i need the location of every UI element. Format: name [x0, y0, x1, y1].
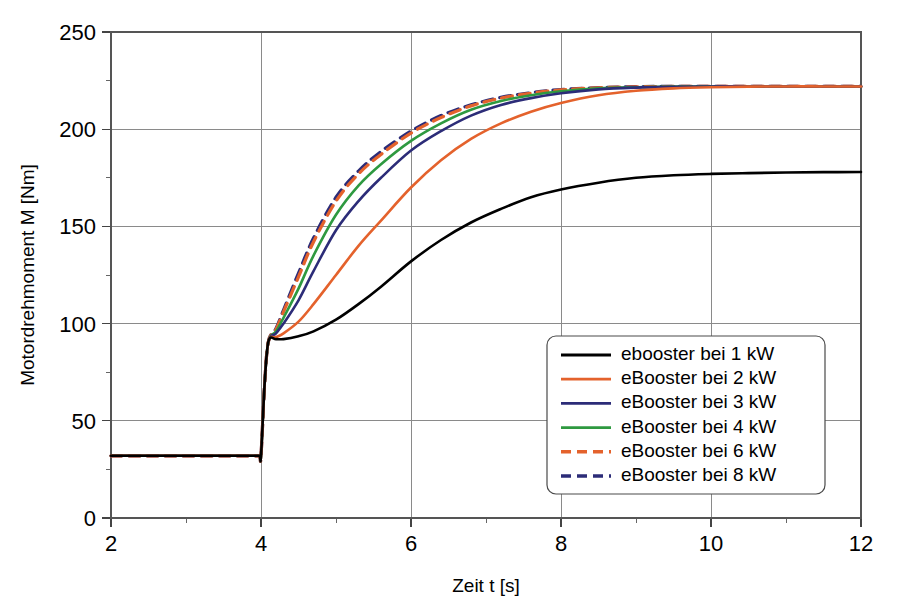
- legend-item-label: eBooster bei 8 kW: [621, 464, 776, 485]
- y-tick-label: 250: [59, 20, 96, 45]
- x-tick-label: 2: [105, 531, 117, 556]
- chart-container: 24681012 050100150200250 Zeit t [s] Moto…: [0, 0, 899, 604]
- y-axis-title: Motordrehmoment M [Nm]: [17, 164, 38, 386]
- y-tick-label: 150: [59, 214, 96, 239]
- legend-item-label: ebooster bei 1 kW: [621, 343, 774, 364]
- x-tick-label: 8: [555, 531, 567, 556]
- x-axis-title: Zeit t [s]: [452, 575, 520, 596]
- x-tick-label: 10: [699, 531, 723, 556]
- x-tick-label: 12: [849, 531, 873, 556]
- y-tick-label: 100: [59, 312, 96, 337]
- y-tick-label: 200: [59, 117, 96, 142]
- chart-background: [0, 0, 899, 604]
- legend-item-label: eBooster bei 4 kW: [621, 416, 776, 437]
- y-tick-label: 50: [72, 409, 96, 434]
- chart-legend: ebooster bei 1 kWeBooster bei 2 kWeBoost…: [547, 336, 825, 494]
- legend-item-label: eBooster bei 6 kW: [621, 440, 776, 461]
- legend-item-label: eBooster bei 2 kW: [621, 367, 776, 388]
- x-tick-label: 6: [405, 531, 417, 556]
- line-chart: 24681012 050100150200250 Zeit t [s] Moto…: [0, 0, 899, 604]
- x-tick-label: 4: [255, 531, 267, 556]
- legend-item-label: eBooster bei 3 kW: [621, 391, 776, 412]
- y-tick-label: 0: [84, 506, 96, 531]
